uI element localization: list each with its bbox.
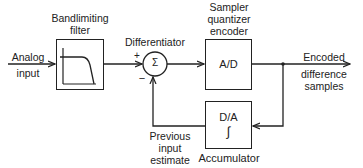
plus-sign: + [132,50,142,62]
encoder-label-line1: Sampler [193,1,265,13]
feedback-label-line1: Previous [145,130,195,142]
filter-label: Bandlimiting filter [45,12,115,36]
analog-input-label-2: input [8,67,48,79]
output-label-rest: difference samples [290,68,358,92]
output-label-line1: Encoded [290,51,358,63]
feedback-label-line3: estimate [145,154,195,166]
differentiator-label: Differentiator [120,36,190,48]
feedback-label-line2: input [145,142,195,154]
output-label-line2: difference [290,68,358,80]
filter-label-line1: Bandlimiting [45,12,115,24]
da-label: D/A [206,111,251,123]
encoder-label-line2: quantizer [193,13,265,25]
analog-input-label: Analog [8,51,48,63]
ad-label: A/D [206,58,251,70]
ad-encoder-block: A/D [205,39,252,90]
bandlimiting-filter-block [56,39,104,90]
filter-label-line2: filter [45,24,115,36]
integral-icon: ∫ [206,124,251,139]
minus-sign: − [137,72,147,84]
previous-estimate-label: Previous input estimate [145,130,195,166]
encoder-label-line3: encoder [193,25,265,37]
encoder-label: Sampler quantizer encoder [193,1,265,37]
estimate-to-differentiator-arrow [153,77,205,126]
analog-input-label-line1: Analog [8,51,48,63]
output-label-line3: samples [290,80,358,92]
accumulator-label: Accumulator [195,152,263,164]
analog-input-label-line2: input [8,67,48,79]
sigma-symbol: Σ [146,57,164,69]
da-accumulator-block: D/A ∫ [205,101,252,149]
feedback-to-da-arrow [253,64,283,126]
